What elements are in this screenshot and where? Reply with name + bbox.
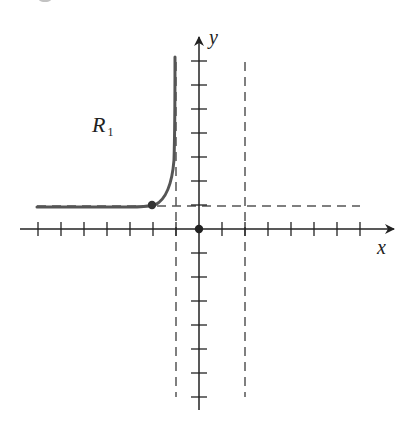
point-neg2-1 (148, 201, 156, 209)
x-axis-label: x (376, 236, 386, 258)
origin-point (195, 225, 203, 233)
function-graph: y x R1 (0, 0, 416, 433)
y-axis-label: y (207, 26, 218, 49)
region-label: R1 (91, 112, 113, 139)
axes (20, 37, 394, 410)
curve-r1 (37, 57, 175, 207)
region-label-subscript: 1 (107, 125, 113, 139)
